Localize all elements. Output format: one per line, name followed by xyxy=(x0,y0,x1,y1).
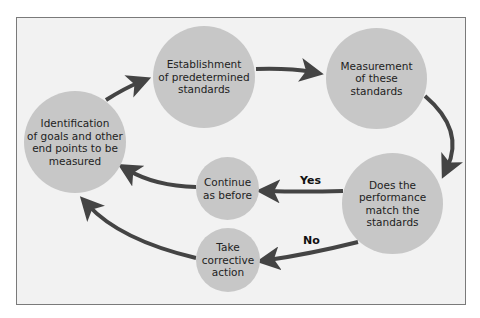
arrow-measure-to-compare xyxy=(425,96,453,168)
arrow-continue-to-identify xyxy=(128,170,196,187)
node-continue: Continue as before xyxy=(196,157,259,220)
arrow-corrective-to-identify xyxy=(88,205,196,258)
node-measurement: Measurement of these standards xyxy=(326,28,427,129)
edge-label-yes: Yes xyxy=(300,174,321,187)
node-identification: Identification of goals and other end po… xyxy=(24,91,126,193)
edge-label-no: No xyxy=(303,234,320,247)
node-establishment: Establishment of predetermined standards xyxy=(153,26,255,128)
arrow-establish-to-measure xyxy=(256,69,312,72)
arrow-compare-to-continue xyxy=(268,191,343,192)
node-corrective-action: Take corrective action xyxy=(196,228,260,292)
node-performance-check: Does the performance match the standards xyxy=(342,153,443,254)
arrow-identify-to-establish xyxy=(106,82,140,100)
